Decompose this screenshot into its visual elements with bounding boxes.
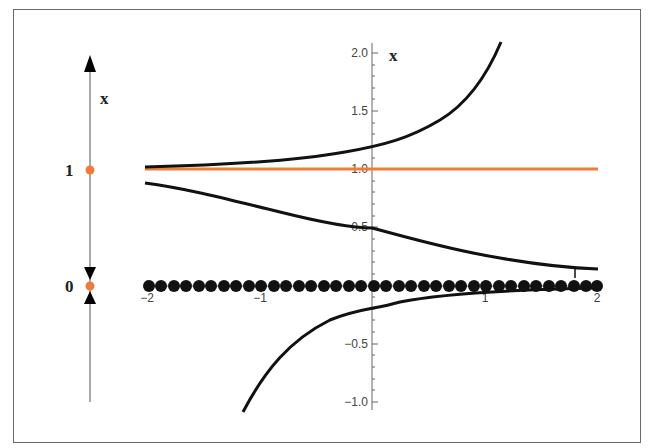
arrow-up-icon xyxy=(84,55,96,72)
series-solution-upper xyxy=(145,42,501,167)
y-tick-2.0: 2.0 xyxy=(351,46,368,60)
x-tick-neg2: −2 xyxy=(140,291,154,305)
y-tick-1.5: 1.5 xyxy=(351,104,368,118)
x-tick-neg1: −1 xyxy=(253,291,267,305)
y-tick-neg1.0: −1.0 xyxy=(344,395,368,409)
equilibrium-label-zero: 0 xyxy=(65,277,74,296)
phase-line: x 1 0 xyxy=(65,55,109,402)
phase-axis-label: x xyxy=(100,89,109,108)
equilibrium-point-one xyxy=(86,166,95,175)
y-axis-label: x xyxy=(389,46,398,65)
series-equilibrium-zero-dots xyxy=(143,280,603,292)
arrow-up-icon xyxy=(84,291,96,304)
x-tick-2: 2 xyxy=(594,291,601,305)
arrow-down-icon xyxy=(84,267,96,280)
equilibrium-label-one: 1 xyxy=(65,161,74,180)
plot-series xyxy=(143,42,603,412)
series-solution-lower xyxy=(243,288,598,412)
y-tick-neg0.5: −0.5 xyxy=(344,337,368,351)
figure-canvas: x 1 0 2.0 1.5 1.0 0.5 −0. xyxy=(0,0,653,448)
equilibrium-point-zero xyxy=(86,282,95,291)
